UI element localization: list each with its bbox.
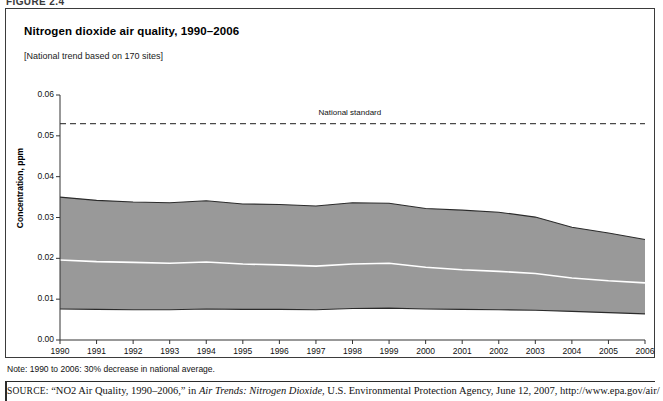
source-text-1: “NO2 Air Quality, 1990–2006,” in (49, 385, 199, 396)
chart-svg (0, 0, 663, 401)
source-label: SOURCE: (7, 386, 49, 396)
chart-area: Concentration, ppm 0.000.010.020.030.040… (0, 0, 663, 401)
figure-source: SOURCE: “NO2 Air Quality, 1990–2006,” in… (7, 385, 660, 396)
source-title-italic: Air Trends: Nitrogen Dioxide (199, 385, 322, 396)
source-text-2: , U.S. Environmental Protection Agency, … (322, 385, 660, 396)
divider-rule (5, 381, 655, 382)
figure-note: Note: 1990 to 2006: 30% decrease in nati… (7, 364, 215, 374)
concentration-band (60, 197, 645, 314)
